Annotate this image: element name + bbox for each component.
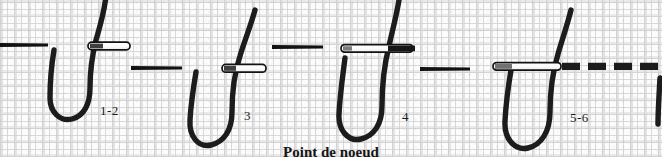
step-3-illustration — [190, 10, 323, 145]
thread-segment-right — [131, 66, 182, 70]
step-label-4: 4 — [402, 109, 409, 125]
stitch-diagram-figure: 1-2 3 4 5-6 Point de noeud — [0, 0, 662, 157]
thread-loop — [50, 0, 106, 120]
sewing-needle — [88, 42, 130, 50]
sewing-needle — [493, 63, 561, 71]
step-label-3: 3 — [244, 108, 251, 124]
sewing-needle — [341, 45, 415, 53]
next-thread-loop-partial — [658, 78, 660, 124]
thread-segment-right — [272, 45, 323, 49]
thread-segment-left — [0, 43, 48, 47]
thread-loop — [339, 0, 399, 139]
step-1-2-illustration — [0, 0, 182, 120]
stitch-illustration — [0, 0, 662, 157]
thread-loop — [190, 10, 255, 145]
step-label-5-6: 5-6 — [570, 110, 589, 126]
step-5-6-illustration — [493, 10, 660, 148]
thread-segment-right — [420, 67, 470, 71]
step-label-1-2: 1-2 — [100, 103, 119, 119]
figure-caption: Point de noeud — [0, 144, 662, 157]
thread-loop — [505, 10, 571, 148]
sewing-needle — [222, 64, 266, 72]
